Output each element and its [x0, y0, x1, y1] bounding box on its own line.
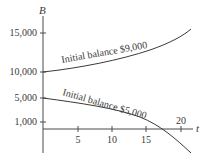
- y-tick-label-5000: 5,000: [15, 92, 38, 103]
- x-tick-label-5: 5: [76, 134, 81, 145]
- y-axis-title: B: [39, 4, 46, 16]
- x-axis-title: t: [196, 122, 200, 134]
- y-tick-label-15000: 15,000: [10, 27, 38, 38]
- balance-chart: B t 15,000 10,000 5,000 1,000 5 10 15 20…: [0, 0, 206, 155]
- curve-label-5000: Initial balance $5,000: [61, 86, 148, 121]
- y-tick-label-10000: 10,000: [10, 66, 38, 77]
- curve-label-9000: Initial balance $9,000: [60, 39, 148, 65]
- y-tick-label-1000: 1,000: [15, 116, 38, 127]
- x-tick-label-15: 15: [141, 134, 151, 145]
- x-tick-label-10: 10: [107, 134, 117, 145]
- x-tick-label-20: 20: [176, 115, 186, 126]
